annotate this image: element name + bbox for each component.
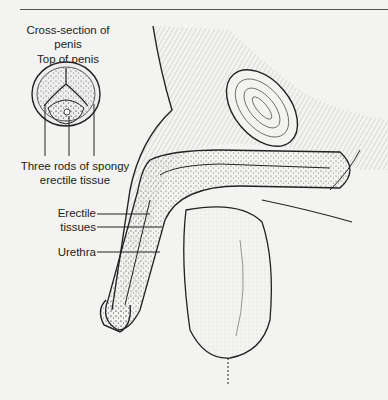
perineum-line [262,200,352,222]
scrotum [184,207,272,386]
cross-section-diagram [32,62,100,156]
anatomy-drawing [0,0,388,400]
